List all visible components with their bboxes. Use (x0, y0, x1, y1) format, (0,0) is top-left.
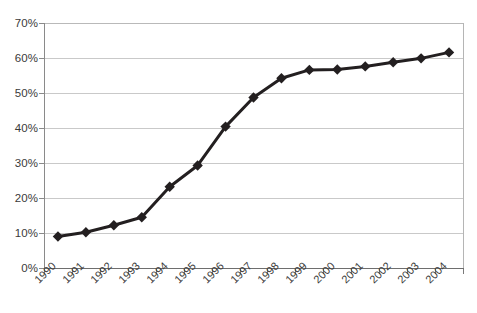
data-point-1990 (53, 231, 63, 241)
series-line (58, 52, 449, 236)
line-chart: 0%10%20%30%40%50%60%70% 1990199119921993… (0, 0, 477, 313)
data-series-layer (0, 0, 477, 313)
series-markers (53, 47, 454, 242)
data-point-2000 (332, 64, 342, 74)
data-point-2003 (416, 53, 426, 63)
data-point-1999 (304, 65, 314, 75)
footer-caption (130, 304, 470, 313)
data-point-2001 (360, 61, 370, 71)
data-point-2004 (444, 47, 454, 57)
data-point-1992 (109, 220, 119, 230)
data-point-1991 (81, 227, 91, 237)
data-point-2002 (388, 57, 398, 67)
